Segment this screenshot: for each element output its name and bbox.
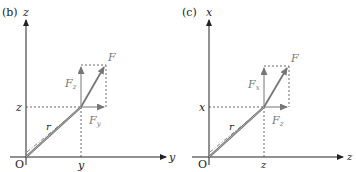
force-vector-f — [264, 68, 287, 107]
horizontal-axis-label: y — [168, 151, 176, 164]
force-label: F — [290, 52, 299, 65]
force-label: F — [107, 51, 116, 64]
origin-label: O — [198, 158, 207, 171]
horizontal-component-label: Fy — [88, 114, 102, 128]
vertical-axis-label: x — [206, 6, 213, 19]
position-vector-highlight — [26, 107, 81, 157]
panel-c: (c) x z O x z r F Fx Fz — [182, 6, 353, 171]
panel-label: (b) — [2, 6, 18, 19]
position-vector-highlight — [209, 107, 264, 157]
vertical-axis-label: z — [22, 6, 29, 19]
origin-label: O — [15, 158, 24, 171]
horizontal-component-label: Fz — [271, 114, 284, 128]
point-horizontal-label: y — [77, 159, 85, 172]
point-horizontal-label: z — [260, 159, 267, 170]
force-vector-f — [81, 67, 104, 107]
panel-b: (b) z y O z y r F Fz Fy — [2, 6, 176, 172]
panel-label: (c) — [182, 6, 197, 19]
vertical-component-label: Fx — [247, 78, 260, 92]
position-vector-label: r — [46, 121, 52, 132]
vertical-component-label: Fz — [64, 77, 77, 91]
point-vertical-label: z — [15, 101, 22, 114]
horizontal-axis-label: z — [346, 151, 353, 162]
point-vertical-label: x — [199, 101, 206, 114]
position-vector-label: r — [229, 121, 235, 132]
